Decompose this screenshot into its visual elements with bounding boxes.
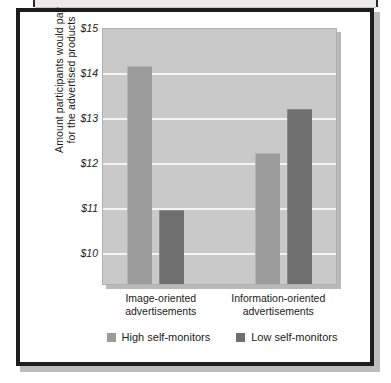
bar-information-low-self-monitors (287, 109, 312, 284)
legend-item-low-self-monitors: Low self-monitors (236, 331, 337, 343)
y-tick-label-13: $13 (54, 112, 98, 124)
legend-swatch-icon-low (236, 333, 245, 342)
category-label-image-oriented-line-2: advertisements (102, 305, 220, 318)
legend-swatch-icon-high (107, 333, 116, 342)
category-label-information-oriented: Information-oriented advertisements (220, 292, 338, 318)
legend-item-high-self-monitors: High self-monitors (107, 331, 211, 343)
bar-image-low-self-monitors (159, 210, 184, 284)
y-axis-tick-labels: $15 $14 $13 $12 $11 $10 (54, 0, 98, 383)
y-tick-label-10: $10 (54, 247, 98, 259)
category-label-information-oriented-line-1: Information-oriented (220, 292, 338, 305)
bar-image-high-self-monitors (127, 66, 152, 284)
y-tick-label-12: $12 (54, 157, 98, 169)
y-tick-label-14: $14 (54, 67, 98, 79)
chart-legend: High self-monitors Low self-monitors (102, 331, 342, 343)
bar-chart: Amount participants would pay for the ad… (0, 0, 391, 383)
x-axis-category-labels: Image-oriented advertisements Informatio… (102, 292, 337, 318)
y-tick-label-11: $11 (54, 202, 98, 214)
legend-label-low: Low self-monitors (251, 331, 337, 343)
legend-label-high: High self-monitors (122, 331, 211, 343)
y-tick-label-15: $15 (54, 22, 98, 34)
category-label-information-oriented-line-2: advertisements (220, 305, 338, 318)
category-label-image-oriented: Image-oriented advertisements (102, 292, 220, 318)
category-label-image-oriented-line-1: Image-oriented (102, 292, 220, 305)
plot-area (102, 28, 337, 285)
bar-information-high-self-monitors (255, 153, 280, 284)
